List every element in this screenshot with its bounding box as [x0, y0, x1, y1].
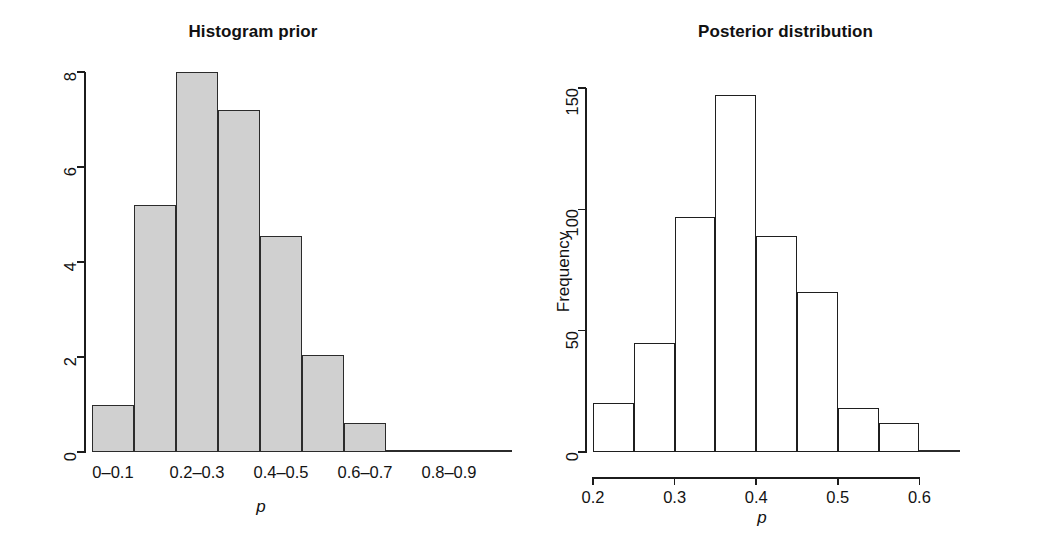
bar-0.1–0.2	[134, 205, 176, 452]
x-tick-label-0.4: 0.4	[726, 488, 786, 507]
panel-posterior-distribution: Posterior distribution 050100150 0.20.30…	[522, 0, 1045, 549]
page-title-histogram-prior: Histogram prior	[0, 22, 514, 42]
panel-histogram-prior: Histogram prior 02468 0–0.10.2–0.30.4–0.…	[0, 0, 522, 549]
x-axis-title-histogram-prior: p	[0, 497, 522, 517]
y-tick-label-150: 150	[561, 88, 583, 138]
x-tick-label-0.2: 0.2	[563, 488, 623, 507]
y-axis-title-posterior-distribution: Frequency	[554, 212, 574, 332]
bar-0.9–1	[470, 450, 512, 452]
bar-0.40–0.45	[756, 236, 797, 452]
x-tick-label-0.6: 0.6	[889, 488, 949, 507]
bar-0.8–0.9	[428, 450, 470, 452]
figure-canvas: Histogram prior 02468 0–0.10.2–0.30.4–0.…	[0, 0, 1045, 549]
y-tick-label-2: 2	[59, 357, 81, 389]
bar-0.45–0.50	[797, 292, 838, 452]
x-tick-label-0.5: 0.5	[808, 488, 868, 507]
x-tick-label-0: 0–0.1	[65, 463, 161, 482]
bar-0.7–0.8	[386, 450, 428, 452]
bar-0.35–0.40	[715, 95, 756, 452]
bar-0.30–0.35	[675, 217, 716, 452]
x-tick-0.3	[674, 477, 676, 485]
y-tick-label-4: 4	[59, 262, 81, 294]
bar-0.25–0.30	[634, 343, 675, 452]
y-tick-label-50: 50	[561, 331, 583, 381]
bar-0.60–0.65	[919, 450, 960, 452]
y-tick-label-6: 6	[59, 167, 81, 199]
x-tick-label-4: 0.8–0.9	[401, 463, 497, 482]
bar-0.50–0.55	[838, 408, 879, 452]
y-tick-label-8: 8	[59, 72, 81, 104]
y-axis-spine	[585, 88, 587, 453]
bar-0.20–0.25	[593, 403, 634, 452]
x-tick-0.5	[837, 477, 839, 485]
bar-0.6–0.7	[344, 423, 386, 452]
page-title-posterior-distribution: Posterior distribution	[524, 22, 1045, 42]
bar-0.2–0.3	[176, 72, 218, 452]
bar-0–0.1	[92, 405, 134, 453]
bar-0.4–0.5	[260, 236, 302, 452]
x-axis-title-posterior-distribution: p	[522, 508, 1002, 528]
bar-0.55–0.60	[879, 423, 920, 452]
bar-0.5–0.6	[302, 355, 344, 452]
x-tick-label-0.3: 0.3	[645, 488, 705, 507]
x-tick-0.2	[592, 477, 594, 485]
bar-0.3–0.4	[218, 110, 260, 452]
x-tick-label-2: 0.4–0.5	[233, 463, 329, 482]
x-tick-0.4	[755, 477, 757, 485]
x-tick-label-1: 0.2–0.3	[149, 463, 245, 482]
x-tick-label-3: 0.6–0.7	[317, 463, 413, 482]
x-tick-0.6	[919, 477, 921, 485]
